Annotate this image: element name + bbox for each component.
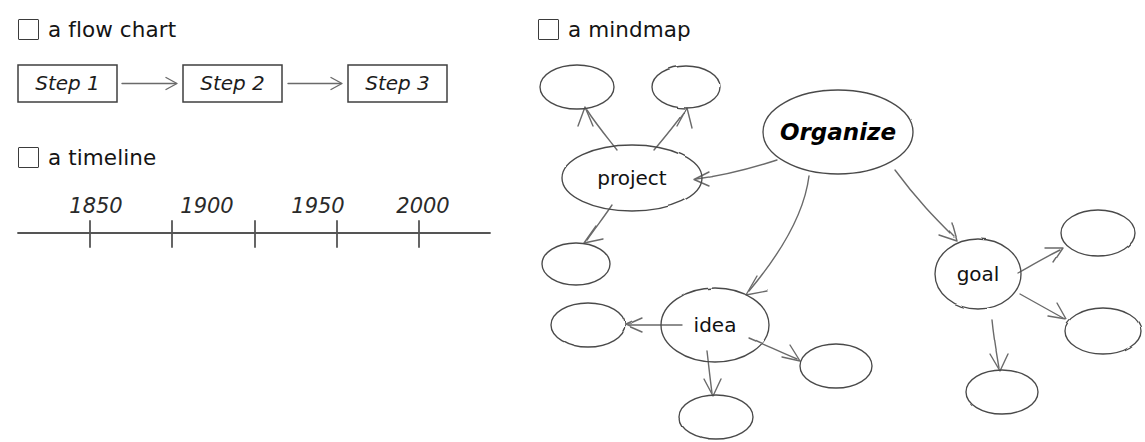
flowchart-step-1-label: Step 1 — [35, 71, 100, 95]
flowchart-step-3-label: Step 3 — [365, 71, 430, 95]
flowchart-connector-1-arrow-icon — [122, 78, 177, 90]
mindmap-node-empty-shape — [1061, 210, 1135, 256]
mindmap-edge-project-leaf-2 — [654, 108, 692, 150]
mindmap-node-empty[interactable] — [542, 243, 610, 285]
mindmap-edge-project-leaf-3 — [584, 205, 612, 243]
mindmap-node-organize[interactable]: Organize — [763, 90, 913, 174]
flowchart-connector-2-arrow-icon — [288, 78, 342, 90]
mindmap-node-goal[interactable]: goal — [935, 239, 1021, 309]
mindmap-checkbox[interactable] — [538, 19, 559, 40]
mindmap-caption-label: a mindmap — [568, 19, 691, 41]
flowchart-step-1[interactable]: Step 1 — [18, 65, 117, 102]
mindmap-edge-goal-leaf-2 — [1020, 294, 1066, 319]
mindmap-node-goal-label: goal — [957, 262, 1000, 286]
mindmap-node-project-label: project — [597, 166, 667, 190]
mindmap-node-empty[interactable] — [679, 395, 753, 439]
mindmap-node-empty[interactable] — [966, 370, 1038, 414]
timeline-label-1: 1850 — [69, 194, 122, 218]
mindmap-edge-idea-leaf-1 — [626, 318, 682, 332]
mindmap-node-idea-label: idea — [694, 313, 737, 337]
mindmap-node-empty-shape — [1065, 308, 1141, 354]
flowchart-checkbox[interactable] — [18, 19, 39, 40]
mindmap-node-empty-shape — [679, 395, 753, 439]
timeline-checkbox[interactable] — [18, 147, 39, 168]
mindmap-node-empty-shape — [966, 370, 1038, 414]
mindmap-edge-idea-leaf-3 — [704, 351, 721, 396]
flowchart-diagram: Step 1 Step 2 Step 3 — [0, 56, 520, 118]
mindmap-edge-project-leaf-1 — [578, 107, 617, 150]
mindmap-node-empty[interactable] — [1065, 308, 1141, 354]
timeline-label-2: 1900 — [180, 194, 233, 218]
mindmap-node-empty-shape — [542, 243, 610, 285]
mindmap-node-empty-shape — [800, 344, 872, 388]
timeline-caption-label: a timeline — [48, 147, 156, 169]
flowchart-step-3[interactable]: Step 3 — [348, 65, 447, 102]
mindmap-node-empty[interactable] — [1061, 210, 1135, 256]
mindmap-node-empty[interactable] — [540, 65, 614, 109]
flowchart-step-2[interactable]: Step 2 — [183, 65, 282, 102]
mindmap-node-organize-label: Organize — [780, 119, 896, 145]
mindmap-node-empty[interactable] — [551, 303, 625, 347]
timeline-diagram: 1850 1900 1950 2000 — [0, 185, 520, 260]
flowchart-caption-label: a flow chart — [48, 19, 176, 41]
mindmap-edge-organize-goal — [895, 170, 957, 241]
mindmap-edge-organize-project — [694, 160, 777, 186]
mindmap-node-empty[interactable] — [800, 344, 872, 388]
mindmap-diagram: Organize project idea goal — [520, 48, 1145, 442]
mindmap-node-empty-shape — [540, 65, 614, 109]
mindmap-node-project[interactable]: project — [562, 145, 702, 211]
flowchart-step-2-label: Step 2 — [200, 71, 265, 95]
timeline-label-3: 1950 — [291, 194, 344, 218]
mindmap-edge-idea-leaf-2 — [749, 338, 800, 361]
mindmap-node-empty-shape — [551, 303, 625, 347]
mindmap-edge-organize-idea — [746, 176, 809, 295]
timeline-caption-row: a timeline — [18, 147, 156, 169]
mindmap-edge-goal-leaf-1 — [1018, 248, 1063, 273]
mindmap-node-empty-shape — [652, 66, 720, 108]
mindmap-node-empty[interactable] — [652, 66, 720, 108]
mindmap-caption-row: a mindmap — [538, 19, 691, 41]
mindmap-edge-goal-leaf-3 — [990, 320, 1008, 371]
timeline-label-4: 2000 — [396, 194, 449, 218]
flowchart-caption-row: a flow chart — [18, 19, 176, 41]
